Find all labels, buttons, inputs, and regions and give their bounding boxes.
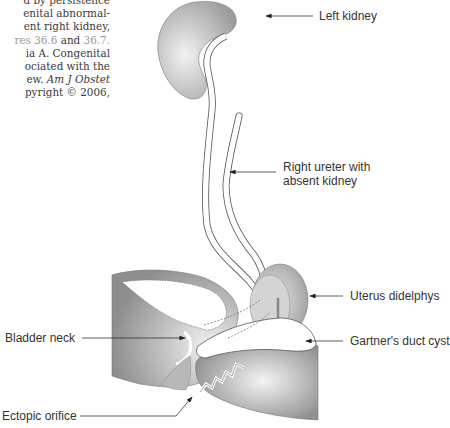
label-ectopic-orifice: Ectopic orifice bbox=[2, 409, 77, 423]
label-bladder-neck: Bladder neck bbox=[5, 331, 75, 345]
left-kidney bbox=[158, 1, 236, 99]
anatomy-illustration bbox=[0, 0, 450, 428]
label-left-kidney: Left kidney bbox=[319, 9, 377, 23]
label-right-ureter: Right ureter with absent kidney bbox=[283, 160, 370, 188]
label-uterus-didelphys: Uterus didelphys bbox=[350, 289, 439, 303]
label-gartner-duct-cyst: Gartner's duct cyst bbox=[350, 334, 450, 348]
